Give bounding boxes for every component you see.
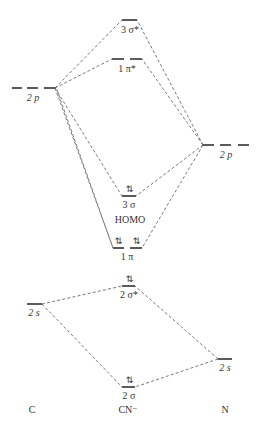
sigma3-electrons: ⇅ xyxy=(126,185,133,194)
pi1-electrons-a: ⇅ xyxy=(115,237,122,246)
pi1-label: 1 π xyxy=(121,252,134,262)
sigma3-label: 3 σ xyxy=(123,200,136,210)
c-2s-label: 2 s xyxy=(28,308,39,318)
c-2p-connectors xyxy=(55,20,122,248)
sigma2-label: 2 σ xyxy=(123,391,136,401)
pi1-electrons-b: ⇅ xyxy=(133,237,140,246)
column-label-carbon: C xyxy=(29,404,36,415)
sigma2-star-label: 2 σ* xyxy=(120,290,138,300)
n-2s-label: 2 s xyxy=(219,363,230,373)
c-2p-label: 2 p xyxy=(27,93,40,103)
pi1-star-label: 1 π* xyxy=(118,64,136,74)
column-label-cyanide: CN⁻ xyxy=(118,404,137,415)
n-2p-connectors xyxy=(136,20,203,248)
sigma2-electrons: ⇅ xyxy=(126,376,133,385)
column-label-nitrogen: N xyxy=(221,404,228,415)
s-connectors xyxy=(42,286,218,387)
n-2p-label: 2 p xyxy=(220,150,233,160)
homo-label: HOMO xyxy=(115,215,146,225)
sigma3-star-label: 3 σ* xyxy=(121,25,139,35)
sigma2-star-electrons: ⇅ xyxy=(126,275,133,284)
